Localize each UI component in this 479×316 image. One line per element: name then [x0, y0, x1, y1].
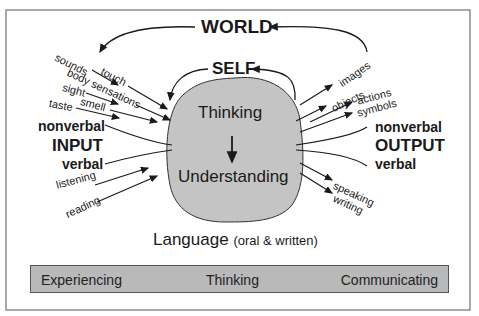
thinking-label: Thinking: [198, 104, 262, 121]
output-verbal-label: verbal: [375, 157, 416, 171]
bar-experiencing: Experiencing: [41, 272, 122, 288]
language-label: Language (oral & written): [153, 231, 318, 248]
output-nonverbal-label: nonverbal: [375, 120, 442, 134]
mind-blob: [167, 77, 303, 222]
self-label: SELF: [212, 60, 255, 77]
understanding-label: Understanding: [178, 168, 289, 185]
bar-thinking: Thinking: [206, 272, 259, 288]
bar-communicating: Communicating: [341, 272, 438, 288]
language-sub: (oral & written): [233, 233, 318, 248]
process-bar: Experiencing Thinking Communicating: [30, 265, 449, 293]
output-title: OUTPUT: [375, 137, 445, 154]
world-label: WORLD: [201, 17, 273, 36]
input-nonverbal-label: nonverbal: [38, 119, 105, 133]
input-verbal-label: verbal: [62, 157, 103, 171]
language-main: Language: [153, 230, 229, 249]
input-title: INPUT: [52, 137, 103, 154]
